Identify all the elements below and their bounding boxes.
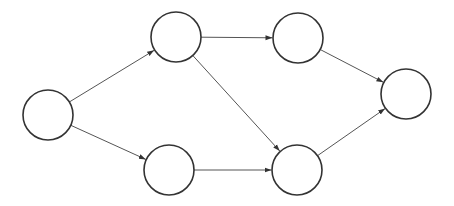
edge-a-to-b [69,50,154,102]
node-circle [381,69,431,119]
node-e [272,145,322,195]
node-f [381,69,431,119]
diagram-canvas [0,0,454,206]
edge-b-to-d [201,37,273,38]
node-d [273,13,323,63]
node-c [144,145,194,195]
directed-graph [0,0,454,206]
node-circle [144,145,194,195]
edges-layer [69,37,385,170]
node-circle [151,12,201,62]
node-circle [23,90,73,140]
node-circle [272,145,322,195]
edge-d-to-f [320,50,383,83]
edge-e-to-f [318,109,386,156]
node-b [151,12,201,62]
edge-a-to-c [71,125,146,159]
node-a [23,90,73,140]
node-circle [273,13,323,63]
edge-b-to-e [193,56,280,152]
nodes-layer [23,12,431,195]
